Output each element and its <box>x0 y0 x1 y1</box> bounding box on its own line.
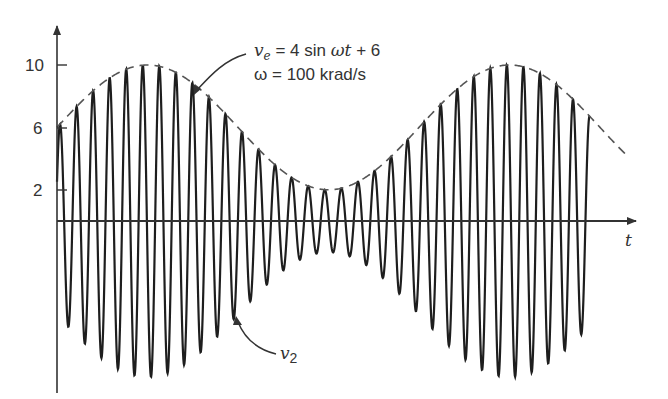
ve-subscript: e <box>264 49 271 63</box>
ve-omega-t: ωt <box>331 40 352 60</box>
y-tick-label-2: 2 <box>33 182 42 199</box>
v2-annotation: v2 <box>280 343 297 364</box>
x-axis-label: t <box>625 232 632 249</box>
v2-subscript: 2 <box>290 350 298 366</box>
ve-eq-tail: + 6 <box>351 41 380 60</box>
ve-variable: v <box>254 40 264 60</box>
ve-eq-text: = 4 sin <box>271 41 331 60</box>
y-tick-label-10: 10 <box>25 57 44 74</box>
envelope-equation-annotation: ve = 4 sin ωt + 6 ω = 100 krad/s <box>254 40 380 86</box>
v2-variable: v <box>280 343 290 363</box>
envelope-leader-arrow <box>197 54 246 90</box>
v2-leader-arrow <box>238 322 276 354</box>
omega-value-text: ω = 100 krad/s <box>254 65 366 84</box>
y-tick-label-6: 6 <box>33 120 42 137</box>
